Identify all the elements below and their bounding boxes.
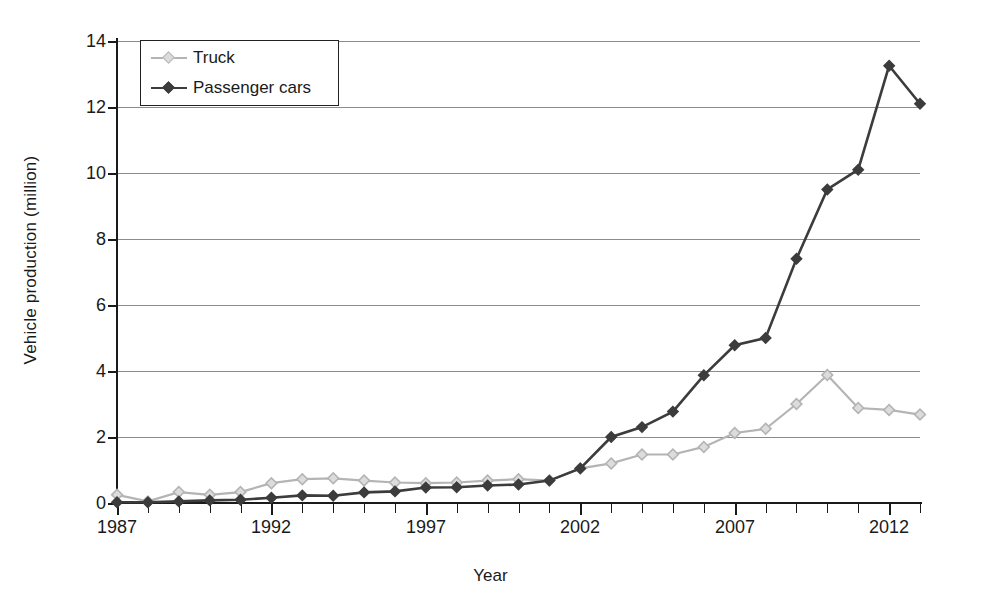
- data-point-marker: [637, 422, 647, 432]
- x-axis-title: Year: [0, 566, 981, 586]
- data-point-marker: [637, 449, 648, 460]
- data-point-marker: [544, 476, 554, 486]
- data-point-marker: [729, 428, 740, 439]
- data-point-marker: [359, 475, 370, 486]
- legend-label-truck: Truck: [187, 48, 235, 68]
- data-point-marker: [390, 486, 400, 496]
- data-point-marker: [668, 449, 679, 460]
- data-point-marker: [698, 442, 709, 453]
- data-point-marker: [328, 473, 339, 484]
- legend-item-passenger-cars[interactable]: Passenger cars: [151, 74, 338, 102]
- data-point-marker: [915, 409, 926, 420]
- legend-item-truck[interactable]: Truck: [151, 44, 338, 72]
- data-point-marker: [297, 490, 307, 500]
- legend-label-passenger-cars: Passenger cars: [187, 78, 311, 98]
- data-point-marker: [761, 333, 771, 343]
- data-point-marker: [266, 478, 277, 489]
- data-point-marker: [174, 496, 184, 506]
- legend-marker-diamond-icon: [151, 81, 187, 95]
- data-point-marker: [606, 458, 617, 469]
- data-point-marker: [791, 254, 801, 264]
- data-point-marker: [328, 491, 338, 501]
- data-point-marker: [235, 495, 245, 505]
- data-point-marker: [266, 493, 276, 503]
- series-line-passenger-cars: [117, 66, 920, 503]
- data-point-marker: [297, 474, 308, 485]
- data-point-marker: [359, 487, 369, 497]
- legend-marker-diamond-icon: [151, 51, 187, 65]
- chart-legend: Truck Passenger cars: [140, 40, 339, 106]
- data-point-marker: [112, 497, 122, 507]
- data-point-marker: [884, 405, 895, 416]
- chart-figure: Vehicle production (million) 02468101214…: [0, 0, 981, 616]
